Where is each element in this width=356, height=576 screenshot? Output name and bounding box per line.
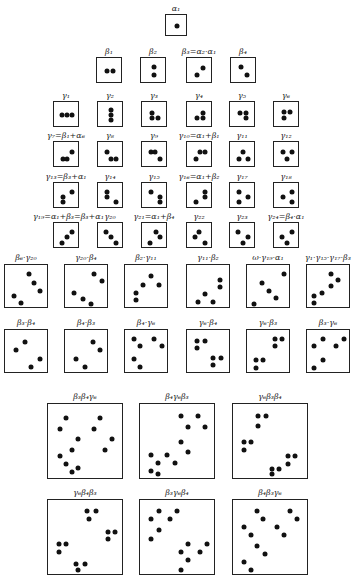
point-dot bbox=[104, 149, 109, 154]
gamma-row-1-cell: γ₃ bbox=[141, 91, 167, 127]
beta-row-cell: β₁ bbox=[96, 47, 122, 83]
point-dot bbox=[103, 229, 108, 234]
lattice-box bbox=[141, 141, 167, 167]
point-dot bbox=[37, 357, 42, 362]
lattice-box bbox=[229, 101, 255, 127]
point-dot bbox=[155, 461, 160, 466]
point-dot bbox=[276, 467, 281, 472]
point-dot bbox=[218, 285, 223, 290]
beta-row-cell: β₂ bbox=[140, 47, 166, 83]
point-dot bbox=[69, 470, 74, 475]
point-dot bbox=[103, 447, 108, 452]
point-dot bbox=[155, 471, 160, 476]
point-dot bbox=[65, 156, 70, 161]
point-dot bbox=[294, 516, 299, 521]
point-dot bbox=[219, 355, 224, 360]
point-dot bbox=[185, 425, 190, 430]
point-dot bbox=[82, 561, 87, 566]
gamma-row-4-cell: γ₂₄=β₄·α₁ bbox=[273, 212, 299, 248]
point-dot bbox=[254, 508, 259, 513]
cell-label: β₄ bbox=[210, 47, 276, 56]
point-dot bbox=[158, 235, 163, 240]
point-dot bbox=[156, 283, 161, 288]
point-dot bbox=[204, 542, 209, 547]
gamma-row-3-cell: γ₁₈ bbox=[273, 172, 299, 208]
point-dot bbox=[195, 299, 200, 304]
delta-row-1-cell: β₂·γ₁₁ bbox=[124, 253, 168, 308]
gamma-row-1-cell: γ₁ bbox=[53, 91, 79, 127]
point-dot bbox=[286, 462, 291, 467]
big-row-1-cell: γ₆β₃β₄ bbox=[232, 392, 308, 479]
point-dot bbox=[245, 156, 250, 161]
cell-label: β₃·γ₆ bbox=[286, 318, 356, 327]
point-dot bbox=[69, 229, 74, 234]
beta-row-cell: β₃=α₂·α₁ bbox=[186, 47, 212, 83]
point-dot bbox=[243, 110, 248, 115]
lattice-box bbox=[186, 57, 212, 83]
point-dot bbox=[104, 195, 109, 200]
point-dot bbox=[198, 550, 203, 555]
point-dot bbox=[312, 365, 317, 370]
big-row-2-cell: β₃γ₆β₄ bbox=[139, 488, 215, 575]
point-dot bbox=[109, 113, 114, 118]
point-dot bbox=[132, 357, 137, 362]
point-dot bbox=[148, 468, 153, 473]
point-dot bbox=[159, 344, 164, 349]
point-dot bbox=[133, 297, 138, 302]
point-dot bbox=[279, 235, 284, 240]
gamma-row-3-cell: γ₁₄ bbox=[97, 172, 123, 208]
point-dot bbox=[179, 567, 184, 572]
gamma-row-2-cell: γ₇=β₁+α₆ bbox=[53, 131, 79, 167]
delta-row-1-cell: γ₂₀·β₄ bbox=[64, 253, 108, 308]
gamma-row-3-cell: γ₁₇ bbox=[229, 172, 255, 208]
lattice-box bbox=[124, 264, 168, 308]
point-dot bbox=[275, 524, 280, 529]
lattice-box bbox=[141, 222, 167, 248]
point-dot bbox=[111, 69, 116, 74]
cell-label: γ₆β₃β₄ bbox=[212, 392, 328, 401]
point-dot bbox=[336, 277, 341, 282]
point-dot bbox=[272, 344, 277, 349]
point-dot bbox=[74, 561, 79, 566]
point-dot bbox=[261, 358, 266, 363]
lattice-box bbox=[186, 182, 212, 208]
point-dot bbox=[59, 113, 64, 118]
point-dot bbox=[168, 516, 173, 521]
delta-row-2-cell: β₄·β₃ bbox=[64, 318, 108, 373]
lattice-box bbox=[273, 222, 299, 248]
point-dot bbox=[261, 516, 266, 521]
point-dot bbox=[92, 272, 97, 277]
point-dot bbox=[243, 116, 248, 121]
point-dot bbox=[23, 339, 28, 344]
point-dot bbox=[203, 240, 208, 245]
point-dot bbox=[256, 424, 261, 429]
gamma-row-4-cell: γ₂₁=α₁+β₄ bbox=[141, 212, 167, 248]
point-dot bbox=[152, 65, 157, 70]
point-dot bbox=[241, 524, 246, 529]
point-dot bbox=[26, 272, 31, 277]
point-dot bbox=[81, 297, 86, 302]
lattice-box bbox=[165, 14, 187, 36]
point-dot bbox=[141, 283, 146, 288]
point-dot bbox=[98, 415, 103, 420]
point-dot bbox=[192, 235, 197, 240]
lattice-box bbox=[273, 141, 299, 167]
point-dot bbox=[156, 528, 161, 533]
point-dot bbox=[112, 529, 117, 534]
lattice-box bbox=[53, 101, 79, 127]
big-row-1-cell: β₃β₄γ₆ bbox=[47, 392, 123, 479]
point-dot bbox=[93, 508, 98, 513]
lattice-box bbox=[97, 101, 123, 127]
point-dot bbox=[196, 229, 201, 234]
lattice-box bbox=[186, 329, 230, 373]
lattice-box bbox=[97, 182, 123, 208]
cell-label: α₁ bbox=[145, 4, 207, 13]
point-dot bbox=[185, 449, 190, 454]
lattice-box bbox=[139, 403, 215, 479]
point-dot bbox=[106, 537, 111, 542]
point-dot bbox=[109, 235, 114, 240]
point-dot bbox=[88, 301, 93, 306]
point-dot bbox=[109, 436, 114, 441]
lattice-box bbox=[4, 264, 48, 308]
delta-row-1-cell: β₆·γ₂₀ bbox=[4, 253, 48, 308]
